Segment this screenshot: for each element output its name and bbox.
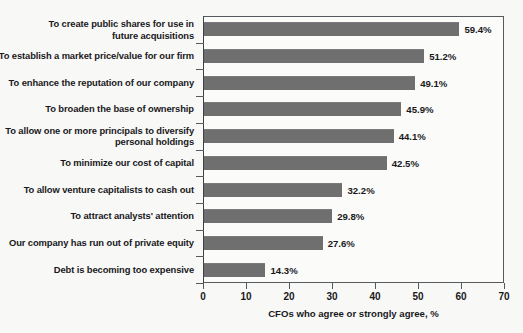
y-axis-tick (196, 43, 204, 44)
y-axis-tick (196, 96, 204, 97)
x-axis-tick (418, 283, 419, 289)
bar (204, 102, 401, 116)
x-axis-title: CFOs who agree or strongly agree, % (203, 308, 504, 319)
category-label: To create public shares for use in futur… (0, 18, 194, 40)
bar (204, 129, 394, 143)
bar (204, 183, 342, 197)
bar-row: To attract analysts' attention29.8% (0, 203, 523, 230)
x-axis-tick-label: 10 (240, 291, 251, 302)
x-axis-tick-label: 60 (455, 291, 466, 302)
bar-row: To enhance the reputation of our company… (0, 69, 523, 96)
bar (204, 76, 415, 90)
category-label: Our company has run out of private equit… (0, 237, 194, 248)
x-axis-tick-label: 40 (369, 291, 380, 302)
bar (204, 156, 387, 170)
x-axis-tick (375, 283, 376, 289)
bar-row: To minimize our cost of capital42.5% (0, 150, 523, 177)
category-label: To establish a market price/value for ou… (0, 50, 194, 61)
x-axis-tick (504, 283, 505, 289)
bar-row: To broaden the base of ownership45.9% (0, 96, 523, 123)
bar-row: Our company has run out of private equit… (0, 230, 523, 257)
bar (204, 209, 332, 223)
bar-row: To establish a market price/value for ou… (0, 43, 523, 70)
x-axis-tick (461, 283, 462, 289)
bar (204, 22, 459, 36)
x-axis-tick (332, 283, 333, 289)
category-label: To attract analysts' attention (0, 211, 194, 222)
y-axis-tick (196, 69, 204, 70)
x-axis-tick-label: 0 (200, 291, 206, 302)
bar-value-label: 27.6% (328, 237, 355, 248)
y-axis-tick (196, 283, 204, 284)
category-label: To allow venture capitalists to cash out (0, 184, 194, 195)
bar (204, 236, 323, 250)
x-axis-tick (289, 283, 290, 289)
x-axis-tick-label: 20 (283, 291, 294, 302)
y-axis-tick (196, 256, 204, 257)
category-label: To enhance the reputation of our company (0, 77, 194, 88)
bar-row: To allow one or more principals to diver… (0, 123, 523, 150)
bar-value-label: 29.8% (337, 211, 364, 222)
x-axis-tick (246, 283, 247, 289)
bar-value-label: 49.1% (420, 77, 447, 88)
bar-value-label: 59.4% (464, 24, 491, 35)
x-axis-tick-label: 30 (326, 291, 337, 302)
bar-row: Debt is becoming too expensive14.3% (0, 256, 523, 283)
bar (204, 49, 424, 63)
bar-value-label: 51.2% (429, 51, 456, 62)
y-axis-tick (196, 150, 204, 151)
category-label: To broaden the base of ownership (0, 104, 194, 115)
category-label: Debt is becoming too expensive (0, 264, 194, 275)
chart-page: To create public shares for use in futur… (0, 0, 523, 333)
bar-row: To allow venture capitalists to cash out… (0, 176, 523, 203)
y-axis-tick (196, 203, 204, 204)
bar-value-label: 44.1% (399, 131, 426, 142)
bar-value-label: 45.9% (406, 104, 433, 115)
bar-value-label: 32.2% (347, 184, 374, 195)
y-axis-tick (196, 230, 204, 231)
bar-row: To create public shares for use in futur… (0, 16, 523, 43)
bar-value-label: 42.5% (392, 157, 419, 168)
bar-value-label: 14.3% (270, 264, 297, 275)
bar (204, 263, 265, 277)
x-axis-tick-label: 70 (498, 291, 509, 302)
category-label: To allow one or more principals to diver… (0, 125, 194, 147)
y-axis-tick (196, 123, 204, 124)
category-label: To minimize our cost of capital (0, 157, 194, 168)
x-axis-tick-label: 50 (412, 291, 423, 302)
y-axis-tick (196, 176, 204, 177)
